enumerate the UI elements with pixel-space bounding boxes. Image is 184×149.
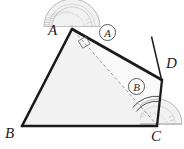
angle-marker-label-b: B — [128, 78, 145, 95]
angle-marker-label-a: A — [99, 24, 116, 41]
tick-line-through-d — [152, 37, 162, 80]
vertex-label-b: B — [5, 126, 14, 141]
vertex-label-a: A — [48, 23, 57, 38]
point-label-d: D — [166, 56, 177, 71]
vertex-label-c: C — [151, 129, 161, 144]
geometry-canvas — [0, 0, 184, 149]
geometry-figure: A B C D A B — [0, 0, 184, 149]
